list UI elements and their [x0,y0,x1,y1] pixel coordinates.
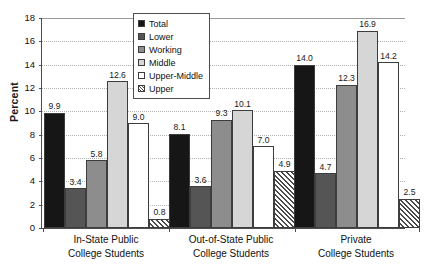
legend-item-label: Total [149,19,168,29]
bar-rect[interactable] [315,173,336,228]
y-axis-tick-mark [39,111,42,112]
y-axis-tick-mark [39,158,42,159]
legend-item-upper[interactable]: Upper [138,82,203,95]
bar-total[interactable]: 9.9 [44,18,65,228]
legend-swatch-icon [138,20,145,27]
bar-rect[interactable] [107,81,128,228]
bar-rect[interactable] [86,160,107,228]
bar-rect[interactable] [211,120,232,229]
legend-swatch-icon [138,59,145,66]
bar-rect[interactable] [190,186,211,228]
y-axis-tick-label: 16 [1,36,35,45]
y-axis-tick-mark [39,65,42,66]
plot-area: 9.93.45.812.69.00.88.13.69.310.17.04.914… [41,18,405,229]
bar-middle[interactable]: 12.6 [107,18,128,228]
bar-working[interactable]: 9.3 [211,18,232,228]
x-axis-tick-mark [419,228,420,232]
legend-swatch-icon [138,85,145,92]
y-axis-title: Percent [8,70,20,134]
bar-working[interactable]: 5.8 [86,18,107,228]
y-axis-tick-mark [39,41,42,42]
bar-upper[interactable]: 2.5 [399,18,420,228]
bar-uppermid[interactable]: 7.0 [253,18,274,228]
x-axis-group-label: PrivateCollege Students [276,233,424,260]
legend-item-label: Upper [149,84,174,94]
legend-item-label: Lower [149,32,174,42]
bar-rect[interactable] [232,110,253,228]
legend-swatch-icon [138,33,145,40]
x-axis-tick-mark [295,228,296,232]
legend-item-label: Working [149,45,182,55]
chart-legend: TotalLowerWorkingMiddleUpper-MiddleUpper [133,13,210,99]
bar-total[interactable]: 14.0 [294,18,315,228]
y-axis-tick-label: 2 [1,200,35,209]
bar-group: 14.04.712.316.914.22.5 [294,18,420,228]
bar-value-label: 2.5 [392,187,424,197]
legend-item-middle[interactable]: Middle [138,56,203,69]
y-axis-tick-mark [39,88,42,89]
bar-upper[interactable]: 4.9 [274,18,295,228]
y-axis-tick-label: 6 [1,153,35,162]
legend-swatch-icon [138,72,145,79]
y-axis-tick-mark [39,135,42,136]
y-axis-tick-mark [39,181,42,182]
x-axis-tick-mark [169,228,170,232]
bar-working[interactable]: 12.3 [336,18,357,228]
bar-rect[interactable] [294,65,315,228]
legend-item-label: Middle [149,58,176,68]
legend-item-lower[interactable]: Lower [138,30,203,43]
y-axis-tick-label: 8 [1,130,35,139]
bar-lower[interactable]: 3.4 [65,18,86,228]
legend-item-working[interactable]: Working [138,43,203,56]
y-axis-tick-mark [39,205,42,206]
y-axis-tick-mark [39,18,42,19]
x-axis-tick-mark [43,228,44,232]
bar-lower[interactable]: 4.7 [315,18,336,228]
y-axis-tick-label: 4 [1,176,35,185]
y-axis-tick-label: 14 [1,60,35,69]
bar-rect[interactable] [65,188,86,228]
legend-item-total[interactable]: Total [138,17,203,30]
x-axis-label-line: College Students [276,247,424,261]
y-axis-tick-label: 12 [1,83,35,92]
legend-item-label: Upper-Middle [149,71,203,81]
y-axis-tick-label: 0 [1,223,35,232]
bar-rect[interactable] [149,219,170,228]
bar-rect[interactable] [274,171,295,228]
y-axis-tick-label: 18 [1,13,35,22]
bar-rect[interactable] [44,113,65,229]
bar-middle[interactable]: 10.1 [232,18,253,228]
bar-middle[interactable]: 16.9 [357,18,378,228]
bar-rect[interactable] [336,85,357,229]
legend-swatch-icon [138,46,145,53]
y-axis-tick-mark [39,228,42,229]
legend-item-uppermid[interactable]: Upper-Middle [138,69,203,82]
bar-rect[interactable] [378,62,399,228]
bar-rect[interactable] [399,199,420,228]
y-axis-tick-label: 10 [1,106,35,115]
x-axis-label-line: Private [276,233,424,247]
